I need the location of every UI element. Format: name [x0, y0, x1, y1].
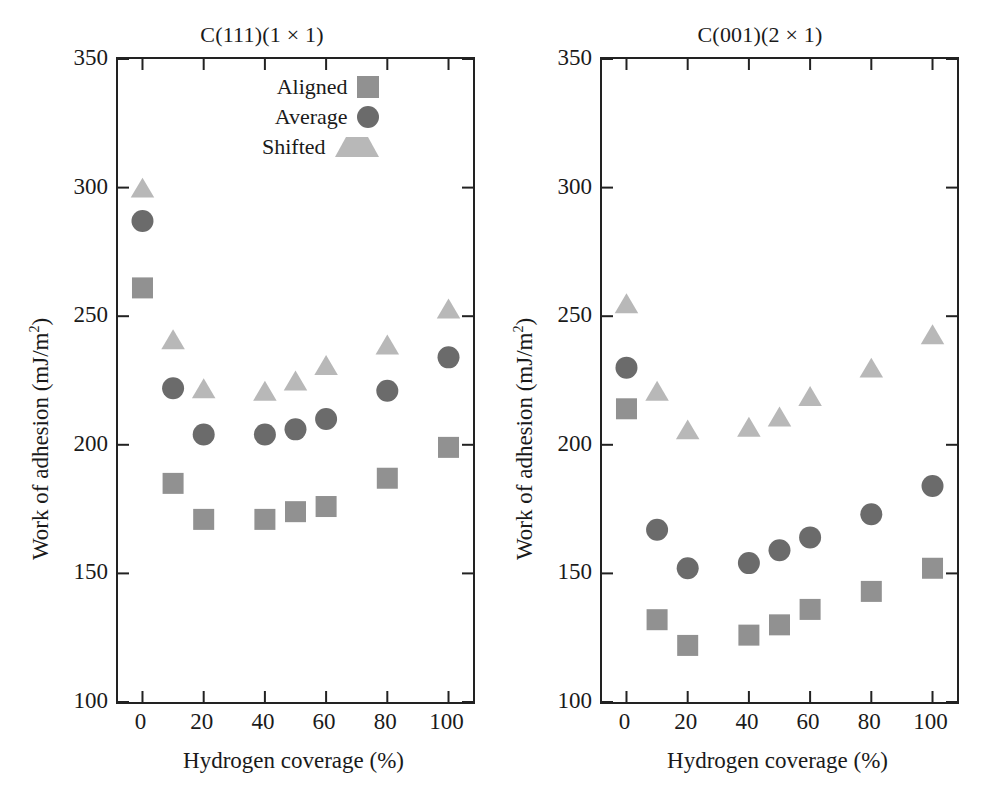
x-tick-label: 40: [228, 710, 298, 733]
circle-marker-icon: [357, 106, 379, 128]
x-tick-label: 80: [350, 710, 420, 733]
x-tick-label: 20: [651, 710, 721, 733]
panel-c111: C(111)(1 × 1) 100150200250300350 0204060…: [0, 0, 492, 797]
data-point-square: [193, 509, 214, 530]
y-tick-label: 350: [34, 46, 108, 69]
data-point-circle: [254, 424, 276, 446]
data-point-circle: [162, 377, 184, 399]
legend-label-shifted-left: Shifted: [262, 136, 326, 158]
data-point-circle: [615, 357, 637, 379]
data-point-triangle: [284, 371, 308, 391]
x-tick-labels-left: 020406080100: [116, 710, 471, 740]
data-point-square: [861, 581, 882, 602]
data-point-square: [438, 437, 459, 458]
data-point-circle: [922, 475, 944, 497]
data-point-triangle: [161, 329, 185, 349]
legend-item-shifted-left: Shifted: [262, 132, 379, 162]
data-point-square: [163, 473, 184, 494]
y-axis-title-exponent-left: 2: [26, 325, 42, 332]
y-axis-title-exponent-right: 2: [510, 325, 526, 332]
x-tick-label: 40: [712, 710, 782, 733]
y-tick-label: 100: [518, 689, 592, 712]
square-marker-icon: [357, 76, 379, 98]
triangle-marker-icon: [335, 137, 379, 157]
x-tick-label: 20: [167, 710, 237, 733]
data-point-square: [800, 599, 821, 620]
data-point-circle: [738, 552, 760, 574]
figure-scatter-plots: C(111)(1 × 1) 100150200250300350 0204060…: [0, 0, 984, 797]
y-tick-label: 300: [518, 174, 592, 197]
x-tick-label: 100: [412, 710, 482, 733]
y-tick-label: 350: [518, 46, 592, 69]
y-tick-label: 300: [34, 174, 108, 197]
data-point-square: [377, 468, 398, 489]
x-tick-label: 80: [834, 710, 904, 733]
data-point-triangle: [676, 419, 700, 439]
legend-item-aligned-left: Aligned: [262, 72, 379, 102]
y-axis-title-suffix-left: ): [28, 318, 53, 326]
data-point-square: [132, 277, 153, 298]
data-point-circle: [376, 380, 398, 402]
data-point-circle: [285, 418, 307, 440]
data-point-square: [316, 496, 337, 517]
data-point-square: [647, 609, 668, 630]
x-axis-title-right: Hydrogen coverage (%): [600, 748, 955, 774]
data-point-triangle: [253, 381, 277, 401]
data-point-circle: [438, 346, 460, 368]
data-point-square: [677, 635, 698, 656]
data-point-triangle: [615, 293, 639, 313]
data-point-triangle: [192, 378, 216, 398]
legend-left: Aligned Average Shifted: [262, 72, 379, 162]
x-tick-labels-right: 020406080100: [600, 710, 955, 740]
y-axis-title-right: Work of adhesion (mJ/m2): [510, 318, 538, 560]
data-point-triangle: [314, 355, 338, 375]
y-axis-title-text-right: Work of adhesion (mJ/m: [512, 333, 537, 560]
x-tick-label: 0: [589, 710, 659, 733]
legend-label-aligned-left: Aligned: [277, 76, 348, 98]
x-tick-label: 60: [773, 710, 843, 733]
data-markers-right: [602, 59, 957, 702]
data-point-circle: [769, 539, 791, 561]
legend-label-average-left: Average: [275, 106, 348, 128]
data-point-circle: [677, 557, 699, 579]
y-tick-label: 100: [34, 689, 108, 712]
data-point-triangle: [131, 178, 155, 198]
data-point-square: [616, 398, 637, 419]
data-point-triangle: [437, 299, 461, 319]
y-axis-title-left: Work of adhesion (mJ/m2): [26, 318, 54, 560]
data-point-circle: [193, 424, 215, 446]
data-point-square: [769, 614, 790, 635]
data-point-square: [254, 509, 275, 530]
data-point-triangle: [645, 381, 669, 401]
data-point-circle: [315, 408, 337, 430]
x-tick-label: 0: [105, 710, 175, 733]
y-axis-title-text-left: Work of adhesion (mJ/m: [28, 333, 53, 560]
data-point-triangle: [376, 335, 400, 355]
data-point-circle: [799, 526, 821, 548]
legend-item-average-left: Average: [262, 102, 379, 132]
data-point-square: [738, 625, 759, 646]
panel-c001: C(001)(2 × 1) 100150200250300350 0204060…: [492, 0, 984, 797]
y-axis-title-suffix-right: ): [512, 318, 537, 326]
x-tick-label: 100: [896, 710, 966, 733]
x-tick-label: 60: [289, 710, 359, 733]
data-point-triangle: [798, 386, 822, 406]
data-point-circle: [860, 503, 882, 525]
y-tick-label: 150: [34, 560, 108, 583]
plot-area-right: [600, 57, 959, 704]
data-point-triangle: [860, 358, 884, 378]
data-point-square: [922, 558, 943, 579]
data-point-triangle: [921, 324, 945, 344]
data-point-triangle: [768, 407, 792, 427]
data-point-triangle: [737, 417, 761, 437]
data-point-circle: [131, 210, 153, 232]
x-axis-title-left: Hydrogen coverage (%): [116, 748, 471, 774]
data-point-circle: [646, 519, 668, 541]
data-point-square: [285, 501, 306, 522]
y-tick-label: 150: [518, 560, 592, 583]
